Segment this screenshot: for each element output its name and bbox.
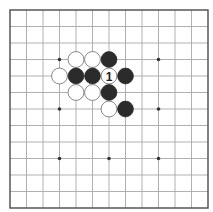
star-point [58,157,62,161]
star-point [58,107,62,111]
white-stone [101,101,117,117]
black-stone [101,85,117,101]
black-stone-circle [101,85,117,101]
white-stone: 1 [101,68,117,84]
black-stone [101,52,117,68]
white-stone [68,85,84,101]
black-stone [85,68,101,84]
star-point [157,107,161,111]
white-stone-circle [85,85,101,101]
black-stone-circle [68,68,84,84]
white-stone [52,68,68,84]
go-board-svg: 1 [0,0,213,212]
black-stone-circle [118,68,134,84]
white-stone [68,52,84,68]
white-stone-circle [85,52,101,68]
black-stone-circle [85,68,101,84]
white-stone-circle [52,68,68,84]
white-stone [85,52,101,68]
white-stone [85,85,101,101]
black-stone [118,68,134,84]
star-point [107,157,111,161]
star-point [157,58,161,62]
go-board: 1 [0,0,213,212]
black-stone [118,101,134,117]
white-stone-circle [68,85,84,101]
move-number-label: 1 [106,70,113,84]
white-stone-circle [68,52,84,68]
star-point [58,58,62,62]
black-stone-circle [101,52,117,68]
black-stone-circle [118,101,134,117]
white-stone-circle [101,101,117,117]
black-stone [68,68,84,84]
star-point [157,157,161,161]
